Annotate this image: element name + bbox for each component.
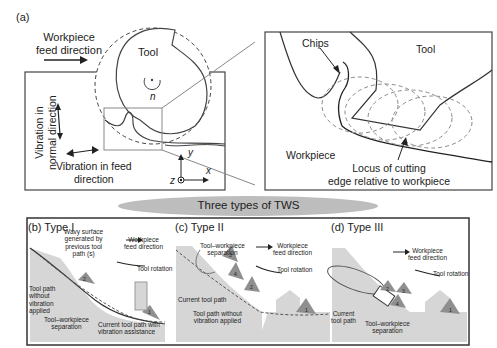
panel-b-current-label: Current tool path with vibration assista… xyxy=(98,321,160,336)
panel-d-feed-label: Workpiece feed direction xyxy=(408,247,447,262)
axis-y-label: y xyxy=(188,148,193,158)
panel-b-separation-label: Tool–workpiece separation xyxy=(44,316,89,331)
panel-c-current-label: Current tool path xyxy=(178,296,226,303)
tooth-4: 4 xyxy=(234,272,237,277)
tooth-2: 2 xyxy=(83,277,86,282)
feed-direction-label: Workpiece feed direction xyxy=(36,32,102,56)
panel-b-feed-label: Workpiece feed direction xyxy=(124,236,163,251)
panel-c-separation-label: Tool–workpiece separation xyxy=(200,242,245,257)
panel-c-feed-label: Workpiece feed direction xyxy=(273,242,312,257)
panel-b-no-vibration-label: Tool path without vibration applied xyxy=(29,285,55,315)
panel-d-separation-label: Tool–workpiece separation xyxy=(365,320,410,335)
tooth-3: 3 xyxy=(229,253,232,258)
workpiece-label: Workpiece xyxy=(286,150,335,161)
tooth-2: 2 xyxy=(250,285,253,290)
tooth-1: 1 xyxy=(305,308,308,313)
chips-label: Chips xyxy=(302,38,329,49)
tooth-1: 1 xyxy=(449,308,452,313)
panel-d-label: (d) Type III xyxy=(331,222,383,233)
banner-title: Three types of TWS xyxy=(0,200,497,212)
vibration-feed-label: Vibration in feed direction xyxy=(56,160,132,186)
axis-z-label: z xyxy=(170,176,175,186)
tooth-2: 2 xyxy=(386,287,389,292)
tooth-3: 3 xyxy=(402,289,405,294)
panel-d-current-label: Current tool path xyxy=(331,310,356,325)
panel-c-no-vibration-label: Tool path without vibration applied xyxy=(193,310,242,325)
locus-label: Locus of cutting edge relative to workpi… xyxy=(328,162,450,188)
panel-b-rotation-label: Tool rotation xyxy=(137,265,172,272)
tooth-4: 4 xyxy=(396,302,399,307)
axis-x-label: x xyxy=(206,166,211,176)
wavy-surface-label: Wavy surface generated by previous tool … xyxy=(64,228,103,258)
panel-c-label: (c) Type II xyxy=(175,222,224,233)
panel-a-label: (a) xyxy=(16,12,29,23)
tooth-1: 1 xyxy=(148,310,151,315)
vibration-normal-label: Vibration in normal direction xyxy=(33,95,58,170)
zoom-tool-label: Tool xyxy=(416,44,435,55)
rotation-speed-label: n xyxy=(150,92,156,102)
panel-c-rotation-label: Tool rotation xyxy=(277,266,312,273)
panel-d-rotation-label: Tool rotation xyxy=(433,270,468,277)
tool-label: Tool xyxy=(138,47,158,58)
